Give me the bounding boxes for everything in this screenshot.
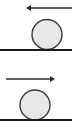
leftward-arrow-head [26,5,31,11]
diagram-panel-bottom [0,67,72,133]
physics-diagram-figure [0,0,72,133]
panel-bottom-canvas [0,67,72,133]
panel-top-canvas [0,0,72,66]
ball [20,90,50,120]
diagram-panel-top [0,0,72,66]
ball [32,20,62,50]
rightward-arrow-head [50,76,55,82]
